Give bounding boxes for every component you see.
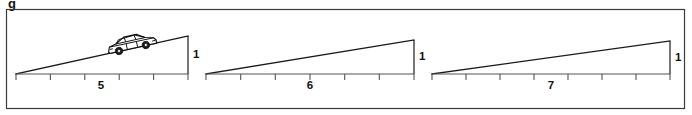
ramp-2-run-label: 6 <box>307 79 313 91</box>
ramp-3-rise-label: 1 <box>675 51 682 63</box>
ramp-1-rise-label: 1 <box>193 48 200 60</box>
ramp-3: 7 1 <box>432 41 682 91</box>
ramp-2-rise-label: 1 <box>419 50 426 62</box>
ramps-diagram: g 5 1 <box>0 0 692 115</box>
figure-frame <box>7 10 685 109</box>
ramp-2: 6 1 <box>206 40 426 91</box>
figure-container: g 5 1 <box>0 0 692 115</box>
ramp-3-run-label: 7 <box>548 79 554 91</box>
ramp-2-incline <box>206 40 414 74</box>
ramp-3-incline <box>432 41 670 74</box>
car-icon <box>106 30 157 56</box>
ramp-1-run-label: 5 <box>98 79 105 91</box>
ramp-1: 5 1 <box>16 30 200 91</box>
ramp-1-incline <box>16 36 188 74</box>
